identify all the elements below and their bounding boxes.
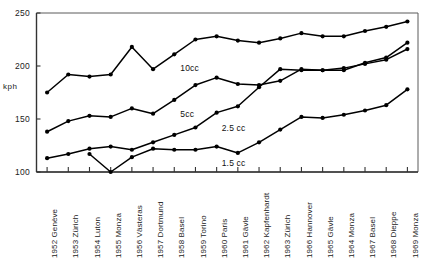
x-tick-label: 1954 Luton [93,217,102,258]
y-tick-label: 150 [6,114,30,124]
x-tick-label: 1966 Hannover [305,202,314,258]
x-tick-label: 1965 Gävle [326,216,335,258]
y-axis-label: kph [3,82,17,91]
series-label-5cc: 5cc [180,109,194,119]
chart-series-lines [45,19,410,174]
y-tick-label: 250 [6,8,30,18]
x-tick-label: 1962 Kapfenhardt [262,193,271,258]
x-tick-label: 1952 Genève [50,209,59,258]
series-label-2-5cc: 2.5 cc [222,123,246,133]
x-tick-label: 1957 Dortmund [156,202,165,258]
x-tick-label: 1959 Torino [199,215,208,258]
x-tick-label: 1953 Zürich [71,215,80,258]
chart-plot-area [0,0,429,262]
y-tick-label: 200 [6,61,30,71]
x-tick-label: 1967 Basel [368,217,377,258]
series-label-10cc: 10cc [180,63,199,73]
x-tick-label: 1961 Gävle [241,216,250,258]
chart-figure: kph 100150200250 1952 Genève1953 Zürich1… [0,0,429,262]
series-label-1-5cc: 1.5 cc [222,158,246,168]
x-tick-label: 1960 Paris [220,219,229,258]
x-tick-label: 1969 Monza [411,213,420,258]
x-tick-label: 1964 Monza [347,213,356,258]
x-tick-label: 1963 Zürich [283,215,292,258]
x-tick-label: 1968 Dieppe [389,212,398,258]
y-tick-label: 100 [6,167,30,177]
x-tick-label: 1956 Västeras [135,205,144,258]
x-tick-label: 1955 Monza [114,213,123,258]
x-tick-label: 1958 Basel [177,217,186,258]
